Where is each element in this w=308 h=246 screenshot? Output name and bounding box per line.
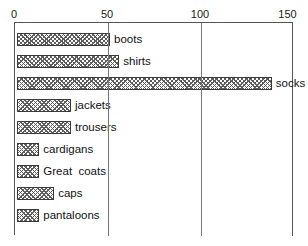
x-axis-tick-150: 150	[278, 8, 296, 20]
bar-row: shirts	[15, 51, 294, 73]
bar-label: trousers	[75, 119, 117, 136]
bar-label: Great coats	[43, 163, 106, 180]
bar-row: boots	[15, 29, 294, 51]
bar-label: caps	[58, 185, 82, 202]
bar-row: trousers	[15, 117, 294, 139]
bar-label: jackets	[75, 97, 111, 114]
bar-trousers	[17, 121, 71, 134]
gridline-100	[201, 23, 202, 236]
bar-series: bootsshirtssocksjacketstrouserscardigans…	[15, 23, 294, 236]
x-axis-tick-50: 50	[101, 8, 113, 20]
bar-label: pantaloons	[43, 207, 99, 224]
x-axis-tick-100: 100	[191, 8, 209, 20]
bar-socks	[17, 77, 272, 90]
bar-label: socks	[276, 75, 305, 92]
bar-row: socks	[15, 73, 294, 95]
bar-chart: j 050100150 bootsshirtssocksjacketstrous…	[0, 0, 308, 246]
bar-caps	[17, 187, 54, 200]
bar-row: jackets	[15, 95, 294, 117]
bar-shirts	[17, 55, 119, 68]
gridline-50	[108, 23, 109, 236]
bar-pantaloons	[17, 209, 39, 222]
bar-row: cardigans	[15, 139, 294, 161]
bar-cardigans	[17, 143, 39, 156]
bar-label: shirts	[123, 53, 150, 70]
bar-jackets	[17, 99, 71, 112]
bar-label: cardigans	[43, 141, 93, 158]
x-axis-tick-0: 0	[11, 8, 17, 20]
bar-label: boots	[114, 31, 142, 48]
bar-great-coats	[17, 165, 39, 178]
plot-area: bootsshirtssocksjacketstrouserscardigans…	[14, 22, 293, 235]
bar-boots	[17, 33, 110, 46]
bar-row: Great coats	[15, 161, 294, 183]
x-axis-tick-labels: 050100150	[0, 8, 308, 22]
bar-row: caps	[15, 183, 294, 205]
bar-row: pantaloons	[15, 205, 294, 227]
